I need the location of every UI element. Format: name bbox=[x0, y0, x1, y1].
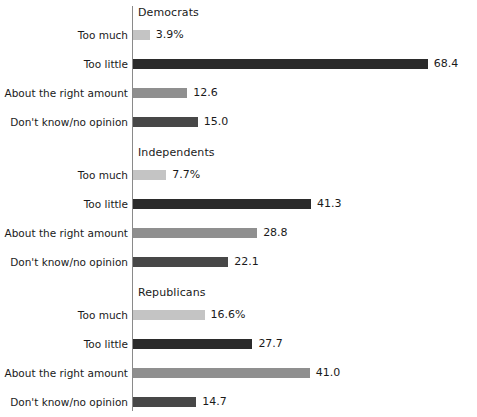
group-title: Democrats bbox=[138, 6, 199, 19]
bar-row: Too much7.7% bbox=[0, 166, 477, 184]
bar-row: Too little41.3 bbox=[0, 195, 477, 213]
group-title: Independents bbox=[138, 146, 215, 159]
bar-value-label: 22.1 bbox=[234, 253, 259, 271]
bar-row: Don't know/no opinion22.1 bbox=[0, 253, 477, 271]
bar-row: Don't know/no opinion14.7 bbox=[0, 393, 477, 411]
bar-row: Too much3.9% bbox=[0, 26, 477, 44]
bar bbox=[133, 117, 198, 127]
bar-value-label: 27.7 bbox=[258, 335, 283, 353]
category-label: Too much bbox=[0, 306, 128, 324]
chart-group: DemocratsToo much3.9%Too little68.4About… bbox=[0, 6, 477, 142]
bar-value-label: 14.7 bbox=[202, 393, 227, 411]
bar-row: Too little27.7 bbox=[0, 335, 477, 353]
category-label: Don't know/no opinion bbox=[0, 393, 128, 411]
bar bbox=[133, 88, 187, 98]
category-label: About the right amount bbox=[0, 364, 128, 382]
bar-row: Don't know/no opinion15.0 bbox=[0, 113, 477, 131]
chart-group: IndependentsToo much7.7%Too little41.3Ab… bbox=[0, 146, 477, 282]
category-label: Too much bbox=[0, 166, 128, 184]
bar-row: About the right amount28.8 bbox=[0, 224, 477, 242]
bar-value-label: 12.6 bbox=[193, 84, 218, 102]
category-label: Too little bbox=[0, 55, 128, 73]
bar bbox=[133, 310, 205, 320]
bar bbox=[133, 59, 428, 69]
bar-value-label: 28.8 bbox=[263, 224, 288, 242]
bar-value-label: 68.4 bbox=[434, 55, 459, 73]
category-label: Don't know/no opinion bbox=[0, 113, 128, 131]
category-label: Don't know/no opinion bbox=[0, 253, 128, 271]
bar-value-label: 7.7% bbox=[172, 166, 200, 184]
bar bbox=[133, 339, 252, 349]
grouped-bar-chart: DemocratsToo much3.9%Too little68.4About… bbox=[0, 0, 477, 417]
bar-row: About the right amount41.0 bbox=[0, 364, 477, 382]
category-label: About the right amount bbox=[0, 224, 128, 242]
bar bbox=[133, 397, 196, 407]
bar-value-label: 16.6% bbox=[211, 306, 246, 324]
chart-group: RepublicansToo much16.6%Too little27.7Ab… bbox=[0, 286, 477, 417]
bar-value-label: 3.9% bbox=[156, 26, 184, 44]
category-label: Too little bbox=[0, 195, 128, 213]
bar-value-label: 41.3 bbox=[317, 195, 342, 213]
category-label: About the right amount bbox=[0, 84, 128, 102]
bar bbox=[133, 30, 150, 40]
bar-row: Too much16.6% bbox=[0, 306, 477, 324]
bar bbox=[133, 228, 257, 238]
category-label: Too much bbox=[0, 26, 128, 44]
category-label: Too little bbox=[0, 335, 128, 353]
bar bbox=[133, 257, 228, 267]
bar bbox=[133, 199, 311, 209]
bar bbox=[133, 170, 166, 180]
bar-value-label: 15.0 bbox=[204, 113, 229, 131]
bar-value-label: 41.0 bbox=[316, 364, 341, 382]
bar-row: About the right amount12.6 bbox=[0, 84, 477, 102]
group-title: Republicans bbox=[138, 286, 206, 299]
bar bbox=[133, 368, 310, 378]
bar-row: Too little68.4 bbox=[0, 55, 477, 73]
